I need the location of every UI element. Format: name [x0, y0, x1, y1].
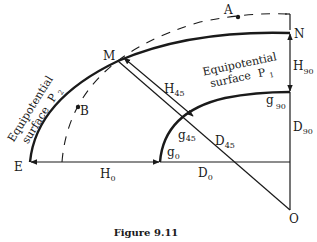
- label-d90: D90: [293, 120, 313, 136]
- label-a: A: [223, 3, 233, 17]
- dashed-reference-arc: [62, 14, 287, 162]
- label-h45: H45: [164, 82, 185, 98]
- label-n: N: [294, 27, 305, 41]
- label-g90: g90: [266, 93, 286, 111]
- surface-p1-label: Equipotential surface P 1: [201, 50, 281, 93]
- label-d0: D0: [198, 166, 213, 182]
- equipotential-surfaces-diagram: A B M N E O Equipotential surface P 1 Eq…: [0, 0, 317, 242]
- label-g0: g0: [167, 145, 180, 161]
- label-h0: H0: [100, 167, 116, 183]
- figure-caption: Figure 9.11: [114, 227, 179, 238]
- label-b: B: [80, 104, 89, 118]
- point-a-dot: [236, 15, 240, 19]
- label-d45: D45: [215, 134, 235, 150]
- surface-p2-label: Equipotential surface P 2: [5, 73, 69, 152]
- label-e: E: [14, 160, 23, 174]
- label-g45: g45: [178, 128, 196, 143]
- d45-line: [118, 61, 290, 210]
- h45-arrow: [124, 58, 193, 116]
- label-h90: H90: [293, 59, 314, 76]
- label-m: M: [103, 49, 115, 63]
- label-o: O: [289, 212, 299, 226]
